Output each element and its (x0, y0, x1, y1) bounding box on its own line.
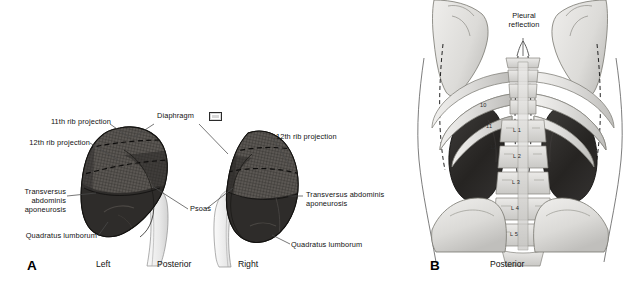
label-quadratus-lumborum-right: Quadratus lumborum (291, 241, 362, 250)
right-kidney-hatched-region (222, 125, 306, 248)
label-12th-rib-projection-right: 12th rib projection (276, 133, 337, 142)
label-transversus-left-line3: aponeurosis (6, 206, 66, 215)
orientation-right: Right (238, 259, 258, 269)
iliac-crest-right (534, 198, 609, 252)
panel-b-illustration (410, 0, 630, 284)
panel-a-kidney-relations: 11th rib projection 12th rib projection … (0, 0, 410, 284)
orientation-posterior-b: Posterior (490, 259, 524, 269)
label-11th-rib-projection-left: 11th rib projection (14, 118, 111, 127)
panel-a-letter: A (27, 258, 37, 273)
diaphragm-color-swatch (209, 112, 222, 121)
panel-b-posterior-trunk: Pleural reflection 10 11 12 L 1 L 2 L 3 … (410, 0, 630, 284)
leader-diaphragm-right (199, 124, 228, 154)
label-quadratus-lumborum-left: Quadratus lumborum (2, 232, 97, 241)
anatomy-figure: 11th rib projection 12th rib projection … (0, 0, 630, 284)
left-kidney-group (78, 120, 172, 266)
vertebra-label-l1: L 1 (513, 127, 521, 133)
vertebra-label-l5: L 5 (510, 231, 518, 237)
orientation-left: Left (96, 259, 110, 269)
vertebra-label-l3: L 3 (512, 179, 520, 185)
orientation-posterior-a: Posterior (157, 259, 191, 269)
vertebra-label-l4: L 4 (511, 205, 519, 211)
rib-number-10: 10 (480, 102, 487, 108)
label-12th-rib-projection-left: 12th rib projection (6, 139, 90, 148)
iliac-crest-left (432, 198, 507, 252)
panel-b-letter: B (430, 258, 440, 273)
vertebra-label-l2: L 2 (513, 153, 521, 159)
rib-number-12: 12 (490, 144, 497, 150)
label-diaphragm: Diaphragm (157, 112, 194, 121)
leader-quadratus-right (272, 235, 290, 244)
label-transversus-right-line2: aponeurosis (306, 200, 347, 209)
label-pleural-line2: reflection (492, 21, 556, 30)
label-psoas: Psoas (190, 205, 211, 214)
rib-number-11: 11 (486, 123, 492, 129)
